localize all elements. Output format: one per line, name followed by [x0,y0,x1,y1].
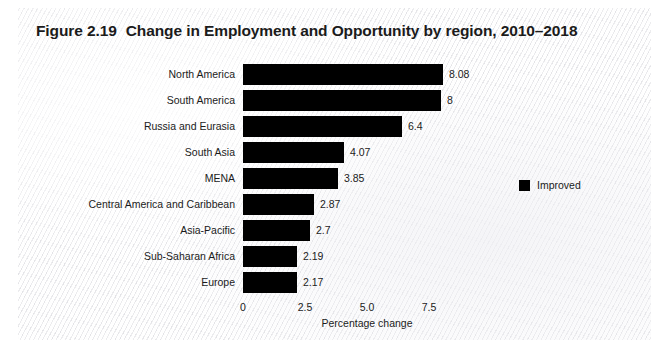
bar [243,246,297,267]
bar-row: Central America and Caribbean2.87 [0,194,651,215]
x-tick-label: 0 [240,301,246,313]
bar-value-label: 2.7 [316,225,331,236]
bar [243,220,310,241]
x-axis: Percentage change 02.55.07.5 [243,297,473,337]
bar-value-label: 4.07 [350,147,370,158]
category-label: Russia and Eurasia [75,121,235,132]
legend-item-label: Improved [537,179,581,191]
category-label: South Asia [75,147,235,158]
chart-legend: Improved [519,179,581,191]
x-tick-label: 2.5 [298,301,313,313]
category-label: Asia-Pacific [75,225,235,236]
bar-row: Europe2.17 [0,272,651,293]
square-swatch-icon [519,180,530,191]
bar-value-label: 8.08 [449,69,469,80]
bar-row: North America8.08 [0,64,651,85]
bar-value-label: 2.19 [303,251,323,262]
x-axis-title: Percentage change [321,317,412,329]
bar-row: South America8 [0,90,651,111]
bar [243,90,441,111]
bar-value-label: 2.87 [320,199,340,210]
bar [243,194,314,215]
bar-row: Sub-Saharan Africa2.19 [0,246,651,267]
bar-value-label: 6.4 [408,121,423,132]
category-label: North America [75,69,235,80]
bar-row: South Asia4.07 [0,142,651,163]
bar-value-label: 2.17 [303,277,323,288]
bar [243,272,297,293]
category-label: Sub-Saharan Africa [75,251,235,262]
bar-row: Asia-Pacific2.7 [0,220,651,241]
category-label: Europe [75,277,235,288]
bar-row: Russia and Eurasia6.4 [0,116,651,137]
category-label: MENA [75,173,235,184]
figure-container: Figure 2.19Change in Employment and Oppo… [0,0,651,357]
category-label: Central America and Caribbean [75,199,235,210]
x-tick-label: 5.0 [360,301,375,313]
bar-value-label: 8 [447,95,453,106]
bar [243,64,443,85]
bar-value-label: 3.85 [344,173,364,184]
x-tick-label: 7.5 [422,301,437,313]
category-label: South America [75,95,235,106]
bar [243,142,344,163]
bar [243,116,402,137]
bar [243,168,338,189]
